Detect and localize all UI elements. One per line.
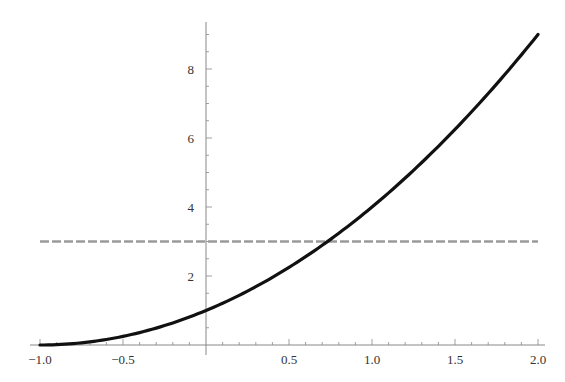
x-tick-label: −1.0	[28, 352, 52, 367]
x-tick-labels: −1.0−0.50.51.01.52.0	[28, 352, 546, 367]
y-tick-label: 6	[188, 131, 195, 146]
y-tick-labels: 2468	[188, 62, 195, 284]
x-tick-label: 0.5	[281, 352, 297, 367]
x-tick-label: 2.0	[530, 352, 546, 367]
chart: −1.0−0.50.51.01.52.0 2468	[0, 0, 565, 382]
x-tick-label: 1.0	[364, 352, 380, 367]
y-tick-label: 8	[188, 62, 195, 77]
x-tick-label: −0.5	[111, 352, 135, 367]
curve-line	[40, 35, 538, 346]
y-tick-label: 2	[188, 269, 195, 284]
x-tick-label: 1.5	[447, 352, 463, 367]
x-minor-ticks	[40, 339, 538, 345]
y-minor-ticks	[206, 35, 212, 328]
y-tick-label: 4	[188, 200, 195, 215]
